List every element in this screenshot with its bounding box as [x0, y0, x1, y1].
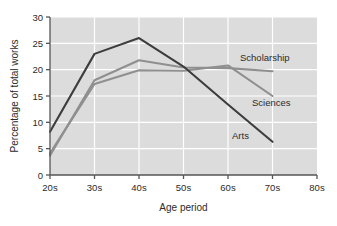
x-tick-label-50s: 50s	[176, 182, 192, 193]
y-tick-label-10: 10	[32, 117, 43, 128]
y-tick-label-25: 25	[32, 38, 43, 49]
y-axis-title: Percentage of total works	[9, 40, 20, 153]
y-tick-label-15: 15	[32, 91, 43, 102]
x-tick-label-80s: 80s	[309, 182, 325, 193]
x-tick-label-40s: 40s	[131, 182, 147, 193]
y-tick-label-30: 30	[32, 12, 43, 23]
series-label-sciences: Sciences	[252, 97, 291, 108]
line-chart: 30 25 20 15 10 5 0 20s 30s 40s 50s 60s 7…	[0, 0, 337, 226]
x-tick-label-30s: 30s	[87, 182, 103, 193]
y-tick-label-0: 0	[38, 170, 43, 181]
x-axis-title: Age period	[159, 202, 207, 213]
x-tick-label-60s: 60s	[220, 182, 236, 193]
chart-container: 30 25 20 15 10 5 0 20s 30s 40s 50s 60s 7…	[0, 0, 337, 226]
y-tick-label-20: 20	[32, 64, 43, 75]
x-tick-label-70s: 70s	[265, 182, 281, 193]
y-tick-label-5: 5	[38, 143, 43, 154]
series-label-arts: Arts	[232, 130, 249, 141]
x-tick-label-20s: 20s	[42, 182, 58, 193]
series-label-scholarship: Scholarship	[240, 52, 290, 63]
